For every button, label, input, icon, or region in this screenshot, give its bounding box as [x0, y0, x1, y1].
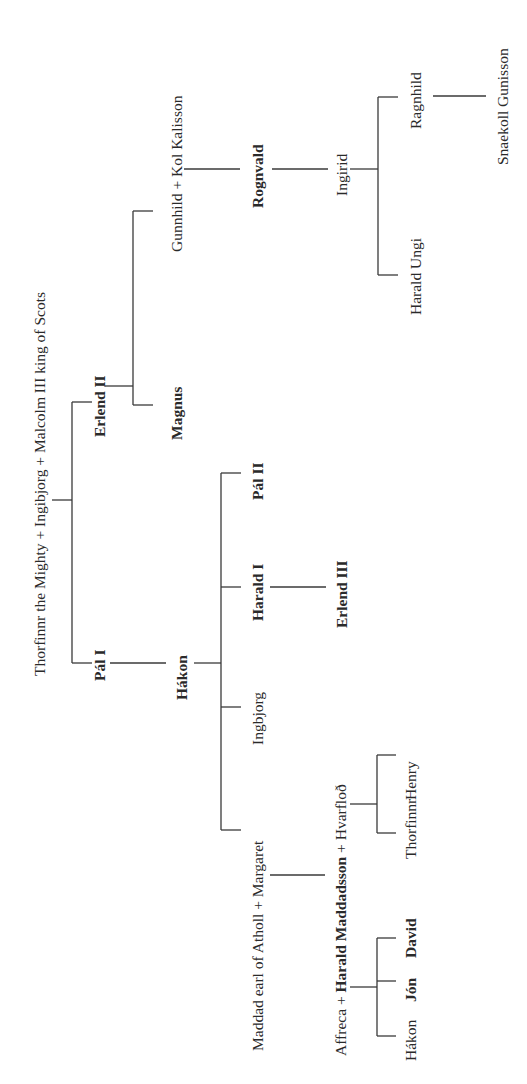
node-pal-ii: Pál II: [250, 463, 266, 500]
node-maddad-margaret: Maddad earl of Atholl + Margaret: [250, 841, 266, 1051]
node-root-couple: Thorfinnr the Mighty + Ingibjorg + Malco…: [32, 292, 48, 676]
node-hakon: Hákon: [174, 655, 190, 700]
node-erlend-iii: Erlend III: [334, 560, 350, 628]
node-henry: Henry: [403, 761, 419, 800]
maddad-earl-of-atholl: Maddad earl of Atholl +: [249, 897, 266, 1051]
node-pal-i: Pál I: [92, 650, 108, 681]
node-ingbjorg: Ingbjorg: [250, 692, 266, 745]
node-david: David: [403, 918, 419, 958]
node-harald-i: Harald I: [250, 564, 266, 621]
node-thorfinnr: Thorfinnr: [403, 799, 419, 859]
node-ragnhild: Ragnhild: [408, 72, 424, 129]
node-hakon-jr: Hákon: [403, 1020, 419, 1061]
hvarflod: + Hvarfloð: [332, 784, 349, 856]
node-margaret: Margaret: [249, 841, 266, 898]
node-snaekoll-gunisson: Snaekoll Gunisson: [495, 48, 511, 165]
family-tree-diagram: Thorfinnr the Mighty + Ingibjorg + Malco…: [0, 0, 527, 1084]
node-gunnhild-kol-kalisson: Gunnhild + Kol Kalisson: [169, 96, 185, 252]
node-erlend-ii: Erlend II: [92, 375, 108, 437]
node-harald-ungi: Harald Ungi: [408, 238, 424, 315]
node-rognvald: Rognvald: [250, 144, 266, 208]
node-harald-maddadsson: Harald Maddadsson: [332, 857, 349, 993]
node-affreca-harald-maddadsson-hvarflod: Affreca + Harald Maddadsson + Hvarfloð: [333, 784, 349, 1056]
node-ingirid: Ingirid: [334, 154, 350, 196]
affreca: Affreca +: [332, 992, 349, 1056]
node-jon: Jón: [403, 978, 419, 1002]
node-magnus: Magnus: [169, 387, 185, 440]
